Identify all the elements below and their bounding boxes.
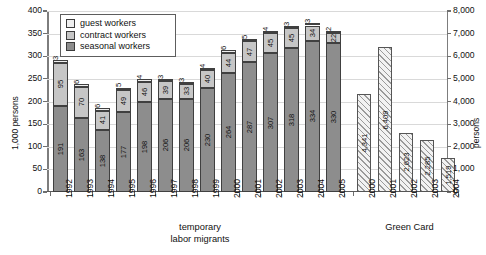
bar-segment-contract: 39 — [158, 81, 173, 99]
bar-value-label-guest: 2 — [324, 26, 333, 30]
y-tick-right — [447, 146, 451, 147]
bar-green-card: 4,341 — [357, 94, 371, 192]
y-tick-label-right: 4,000 — [453, 96, 475, 106]
legend-label-guest-workers: guest workers — [80, 18, 136, 29]
bar-value-label-guest: 6 — [219, 46, 228, 50]
x-tick-label: 2000 — [232, 179, 242, 198]
y-tick-left — [43, 191, 47, 192]
legend-item-contract-workers: contract workers — [66, 30, 170, 42]
bar-value-label-seasonal: 287 — [245, 121, 254, 134]
y-tick-label-left: 400 — [8, 5, 42, 15]
y-tick-label-left: 150 — [8, 118, 42, 128]
bar-value-label-contract: 45 — [266, 39, 275, 47]
bar-value-label-guest: 4 — [135, 75, 144, 79]
bar-segment-seasonal: 330 — [326, 43, 341, 192]
bar-segment-guest — [74, 84, 89, 87]
x-tick-label: 1997 — [169, 179, 179, 198]
bar-value-label-seasonal: 206 — [161, 139, 170, 152]
legend-swatch-contract-workers — [66, 31, 75, 40]
x-tick-label: 1995 — [127, 179, 137, 198]
y-tick-label-right: 1,000 — [453, 163, 475, 173]
bar-segment-contract: 46 — [137, 82, 152, 103]
bar-value-label-guest: 3 — [282, 21, 291, 25]
x-tick-label: 2003 — [295, 179, 305, 198]
bar-segment-contract: 70 — [74, 87, 89, 119]
y-tick-label-left: 250 — [8, 73, 42, 83]
x-tick-label: 1999 — [211, 179, 221, 198]
bar-value-label-guest: 3 — [156, 75, 165, 79]
bar-segment-contract: 22 — [326, 33, 341, 43]
chart-container: 1,000 persons persons 191953163706138416… — [0, 0, 486, 255]
y-tick-label-right: 8,000 — [453, 5, 475, 15]
bar-segment-contract: 45 — [284, 28, 299, 48]
bar-value-label-guest: 4 — [198, 64, 207, 68]
y-tick-left — [43, 101, 47, 102]
y-tick-left — [43, 146, 47, 147]
y-tick-left — [43, 169, 47, 170]
x-tick-label: 1992 — [64, 179, 74, 198]
bar-segment-guest — [95, 108, 110, 111]
bar-value-label-seasonal: 177 — [119, 146, 128, 159]
x-tick-label: 1993 — [85, 179, 95, 198]
x-tick-label: 2005 — [337, 179, 347, 198]
bar-segment-seasonal: 334 — [305, 41, 320, 192]
y-tick-left — [43, 33, 47, 34]
y-tick-label-left: 300 — [8, 50, 42, 60]
bar-segment-contract: 40 — [200, 70, 215, 88]
x-tick-label: 2001 — [388, 179, 398, 198]
bar-value-label-contract: 45 — [287, 34, 296, 42]
y-tick-label-left: 200 — [8, 96, 42, 106]
bar-value-label-contract: 34 — [308, 29, 317, 37]
bar-value-label-green-card: 4,341 — [359, 133, 368, 152]
legend-label-contract-workers: contract workers — [80, 30, 146, 41]
y-tick-label-left: 50 — [8, 163, 42, 173]
x-tick-label: 1994 — [106, 179, 116, 198]
legend-label-seasonal-workers: seasonal workers — [80, 41, 150, 52]
y-tick-right — [447, 33, 451, 34]
y-tick-label-left: 100 — [8, 141, 42, 151]
y-tick-left — [43, 124, 47, 125]
chart-legend: guest workers contract workers seasonal … — [60, 14, 176, 57]
bar-value-label-contract: 95 — [56, 80, 65, 88]
y-tick-left — [43, 56, 47, 57]
bar-value-label-contract: 46 — [140, 88, 149, 96]
bar-segment-contract: 41 — [95, 111, 110, 130]
bar-segment-seasonal: 318 — [284, 48, 299, 192]
bar-segment-guest — [221, 50, 236, 53]
x-tick-label: 2002 — [274, 179, 284, 198]
x-tick-label: 1998 — [190, 179, 200, 198]
y-tick-left — [43, 78, 47, 79]
bar-value-label-seasonal: 318 — [287, 114, 296, 127]
bar-value-label-seasonal: 330 — [329, 111, 338, 124]
bar-value-label-contract: 47 — [245, 47, 254, 55]
bar-value-label-guest: 3 — [303, 19, 312, 23]
bar-value-label-contract: 41 — [98, 116, 107, 124]
bar-value-label-contract: 22 — [329, 33, 338, 41]
bar-stack: 264446 — [221, 11, 236, 192]
bar-value-label-contract: 49 — [119, 97, 128, 105]
x-tick-label: 2001 — [253, 179, 263, 198]
bar-segment-seasonal: 264 — [221, 73, 236, 192]
y-tick-label-left: 350 — [8, 28, 42, 38]
bar-value-label-guest: 6 — [72, 80, 81, 84]
x-tick-label: 2004 — [316, 179, 326, 198]
bar-value-label-green-card: 2,285 — [422, 157, 431, 176]
legend-swatch-seasonal-workers — [66, 42, 75, 51]
y-tick-right — [447, 101, 451, 102]
bar-value-label-green-card: 2,623 — [401, 153, 410, 172]
bar-value-label-seasonal: 163 — [77, 149, 86, 162]
bar-value-label-seasonal: 198 — [140, 141, 149, 154]
bar-value-label-seasonal: 334 — [308, 110, 317, 123]
x-tick-label: 2003 — [430, 179, 440, 198]
bar-value-label-seasonal: 191 — [56, 142, 65, 155]
bar-value-label-contract: 44 — [224, 58, 233, 66]
bar-segment-contract: 49 — [116, 90, 131, 112]
bar-value-label-contract: 40 — [203, 75, 212, 83]
x-tick-label: 1996 — [148, 179, 158, 198]
bar-value-label-seasonal: 206 — [182, 139, 191, 152]
y-tick-label-left: 0 — [8, 186, 42, 196]
legend-item-guest-workers: guest workers — [66, 18, 170, 30]
bar-segment-contract: 47 — [242, 41, 257, 62]
bar-stack: 334343 — [305, 11, 320, 192]
y-tick-right — [447, 78, 451, 79]
